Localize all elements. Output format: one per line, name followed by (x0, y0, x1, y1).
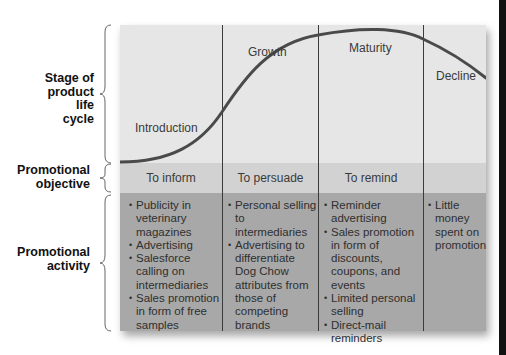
activity-item: Advertising (129, 239, 221, 252)
activities-decline: Little money spent on promotion (428, 199, 484, 252)
activity-item: Advertising to differentiate Dog Chow at… (228, 239, 318, 332)
stage-row-label: Stage of product life cycle (30, 72, 94, 126)
objective-remind: To remind (319, 171, 423, 185)
activity-brace-icon (98, 194, 114, 332)
activity-item: Reminder advertising (324, 199, 422, 226)
objective-row-label: Promotional objective (10, 164, 90, 191)
label-line: objective (10, 178, 90, 192)
activities-maturity: Reminder advertising Sales promotion in … (324, 199, 422, 345)
stage-label-decline: Decline (436, 69, 476, 83)
label-line: Promotional (10, 246, 90, 260)
activities-growth: Personal selling to intermediaries Adver… (228, 199, 318, 332)
label-line: life (30, 99, 94, 113)
activity-item: Direct-mail reminders (324, 319, 422, 346)
activity-item: Personal selling to intermediaries (228, 199, 318, 239)
life-cycle-curve (120, 25, 486, 165)
stage-label-growth: Growth (248, 45, 287, 59)
activity-item: Sales promotion in form of discounts, co… (324, 226, 422, 292)
activity-item: Publicity in veterinary magazines (129, 199, 221, 239)
activity-item: Little money spent on promotion (428, 199, 484, 252)
objective-inform: To inform (120, 171, 222, 185)
life-cycle-panel: Introduction Growth Maturity Decline To … (120, 25, 486, 331)
objective-persuade: To persuade (223, 171, 318, 185)
label-line: Stage of (30, 72, 94, 86)
activities-introduction: Publicity in veterinary magazines Advert… (129, 199, 221, 332)
label-line: cycle (30, 113, 94, 127)
label-line: Promotional (10, 164, 90, 178)
activity-row-label: Promotional activity (10, 246, 90, 273)
activity-item: Sales promotion in form of free samples (129, 292, 221, 332)
stage-brace-icon (98, 24, 114, 164)
right-edge-strip (499, 0, 506, 355)
label-line: product (30, 86, 94, 100)
activity-item: Limited personal selling (324, 292, 422, 319)
stage-label-maturity: Maturity (349, 41, 392, 55)
activity-item: Salesforce calling on intermediaries (129, 252, 221, 292)
stage-label-introduction: Introduction (135, 121, 198, 135)
objective-brace-icon (98, 163, 114, 193)
label-line: activity (10, 260, 90, 274)
